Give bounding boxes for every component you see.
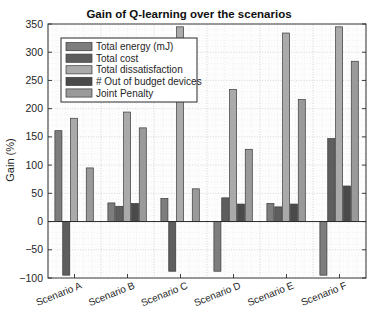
y-tick-label: 350 xyxy=(25,18,43,30)
y-tick-label: −100 xyxy=(19,272,43,284)
bar xyxy=(116,206,123,221)
bar xyxy=(328,139,335,222)
bar xyxy=(275,207,282,222)
bar xyxy=(267,203,274,221)
bar xyxy=(230,89,237,221)
y-tick-label: 0 xyxy=(37,215,43,227)
y-tick-label: 200 xyxy=(25,102,43,114)
bar xyxy=(237,204,244,222)
y-tick-label: 250 xyxy=(25,74,43,86)
bar xyxy=(290,204,297,222)
bar xyxy=(139,128,146,222)
y-axis-label: Gain (%) xyxy=(4,138,16,181)
bar xyxy=(63,222,70,276)
bar xyxy=(336,27,343,222)
y-tick-label: −50 xyxy=(25,243,43,255)
bar xyxy=(86,168,93,222)
legend-label: # Out of budget devices xyxy=(96,76,202,87)
bar xyxy=(343,186,350,222)
bar xyxy=(298,100,305,222)
chart-svg: Gain of Q-learning over the scenarios Ga… xyxy=(0,0,378,324)
bar xyxy=(161,198,168,221)
bar xyxy=(283,33,290,222)
bar xyxy=(131,203,138,221)
bar xyxy=(108,203,115,222)
legend-swatch xyxy=(66,89,92,97)
bar xyxy=(192,189,199,222)
y-tick-label: 150 xyxy=(25,130,43,142)
legend-swatch xyxy=(66,77,92,85)
y-tick-label: 50 xyxy=(31,187,43,199)
bar xyxy=(351,61,358,221)
bar xyxy=(124,112,131,222)
legend-swatch xyxy=(66,54,92,62)
chart-title: Gain of Q-learning over the scenarios xyxy=(86,8,291,20)
bar xyxy=(320,222,327,276)
chart-figure: Gain of Q-learning over the scenarios Ga… xyxy=(0,0,378,324)
y-tick-label: 300 xyxy=(25,46,43,58)
y-tick-label: 100 xyxy=(25,159,43,171)
bar xyxy=(222,198,229,222)
bar xyxy=(169,222,176,272)
legend: Total energy (mJ)Total costTotal dissati… xyxy=(61,38,202,102)
legend-label: Joint Penalty xyxy=(96,88,153,99)
legend-swatch xyxy=(66,66,92,74)
bar xyxy=(71,118,78,221)
legend-label: Total dissatisfaction xyxy=(96,64,183,75)
bar xyxy=(214,222,221,272)
legend-swatch xyxy=(66,43,92,51)
legend-label: Total energy (mJ) xyxy=(96,41,173,52)
bar xyxy=(55,131,62,222)
legend-label: Total cost xyxy=(96,53,138,64)
bar xyxy=(245,149,252,221)
